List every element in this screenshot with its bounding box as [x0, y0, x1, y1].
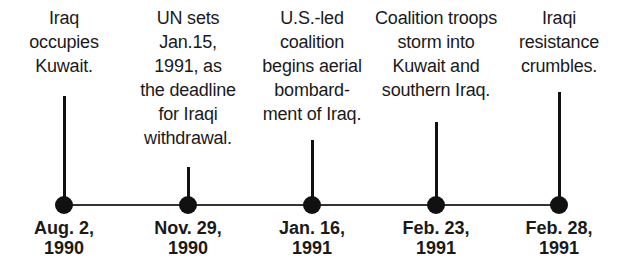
desc-line: occupies — [0, 30, 134, 54]
desc-line: Kuwait. — [0, 54, 134, 78]
event-description: Iraq occupies Kuwait. — [0, 6, 134, 78]
event-marker-dot — [303, 196, 321, 214]
event-marker-dot — [179, 196, 197, 214]
desc-line: southern Iraq. — [356, 78, 516, 102]
event-date: Nov. 29, 1990 — [128, 218, 248, 258]
event-date: Jan. 16, 1991 — [252, 218, 372, 258]
date-line: Nov. 29, — [128, 218, 248, 238]
date-line: Feb. 23, — [376, 218, 496, 238]
desc-line: withdrawal. — [118, 126, 258, 150]
date-line: Feb. 28, — [499, 218, 619, 238]
event-stem — [63, 96, 66, 200]
date-line: Aug. 2, — [4, 218, 124, 238]
date-line: 1991 — [252, 238, 372, 258]
desc-line: resistance — [489, 30, 629, 54]
event-date: Feb. 28, 1991 — [499, 218, 619, 258]
event-marker-dot — [55, 196, 73, 214]
date-line: Jan. 16, — [252, 218, 372, 238]
event-date: Aug. 2, 1990 — [4, 218, 124, 258]
event-stem — [558, 92, 561, 200]
event-stem — [311, 140, 314, 200]
date-line: 1991 — [376, 238, 496, 258]
date-line: 1990 — [128, 238, 248, 258]
event-description: Iraqi resistance crumbles. — [489, 6, 629, 78]
event-marker-dot — [427, 196, 445, 214]
desc-line: Iraqi — [489, 6, 629, 30]
desc-line: Iraq — [0, 6, 134, 30]
desc-line: ment of Iraq. — [237, 102, 387, 126]
desc-line: crumbles. — [489, 54, 629, 78]
event-stem — [435, 122, 438, 200]
date-line: 1991 — [499, 238, 619, 258]
event-marker-dot — [550, 196, 568, 214]
event-date: Feb. 23, 1991 — [376, 218, 496, 258]
date-line: 1990 — [4, 238, 124, 258]
